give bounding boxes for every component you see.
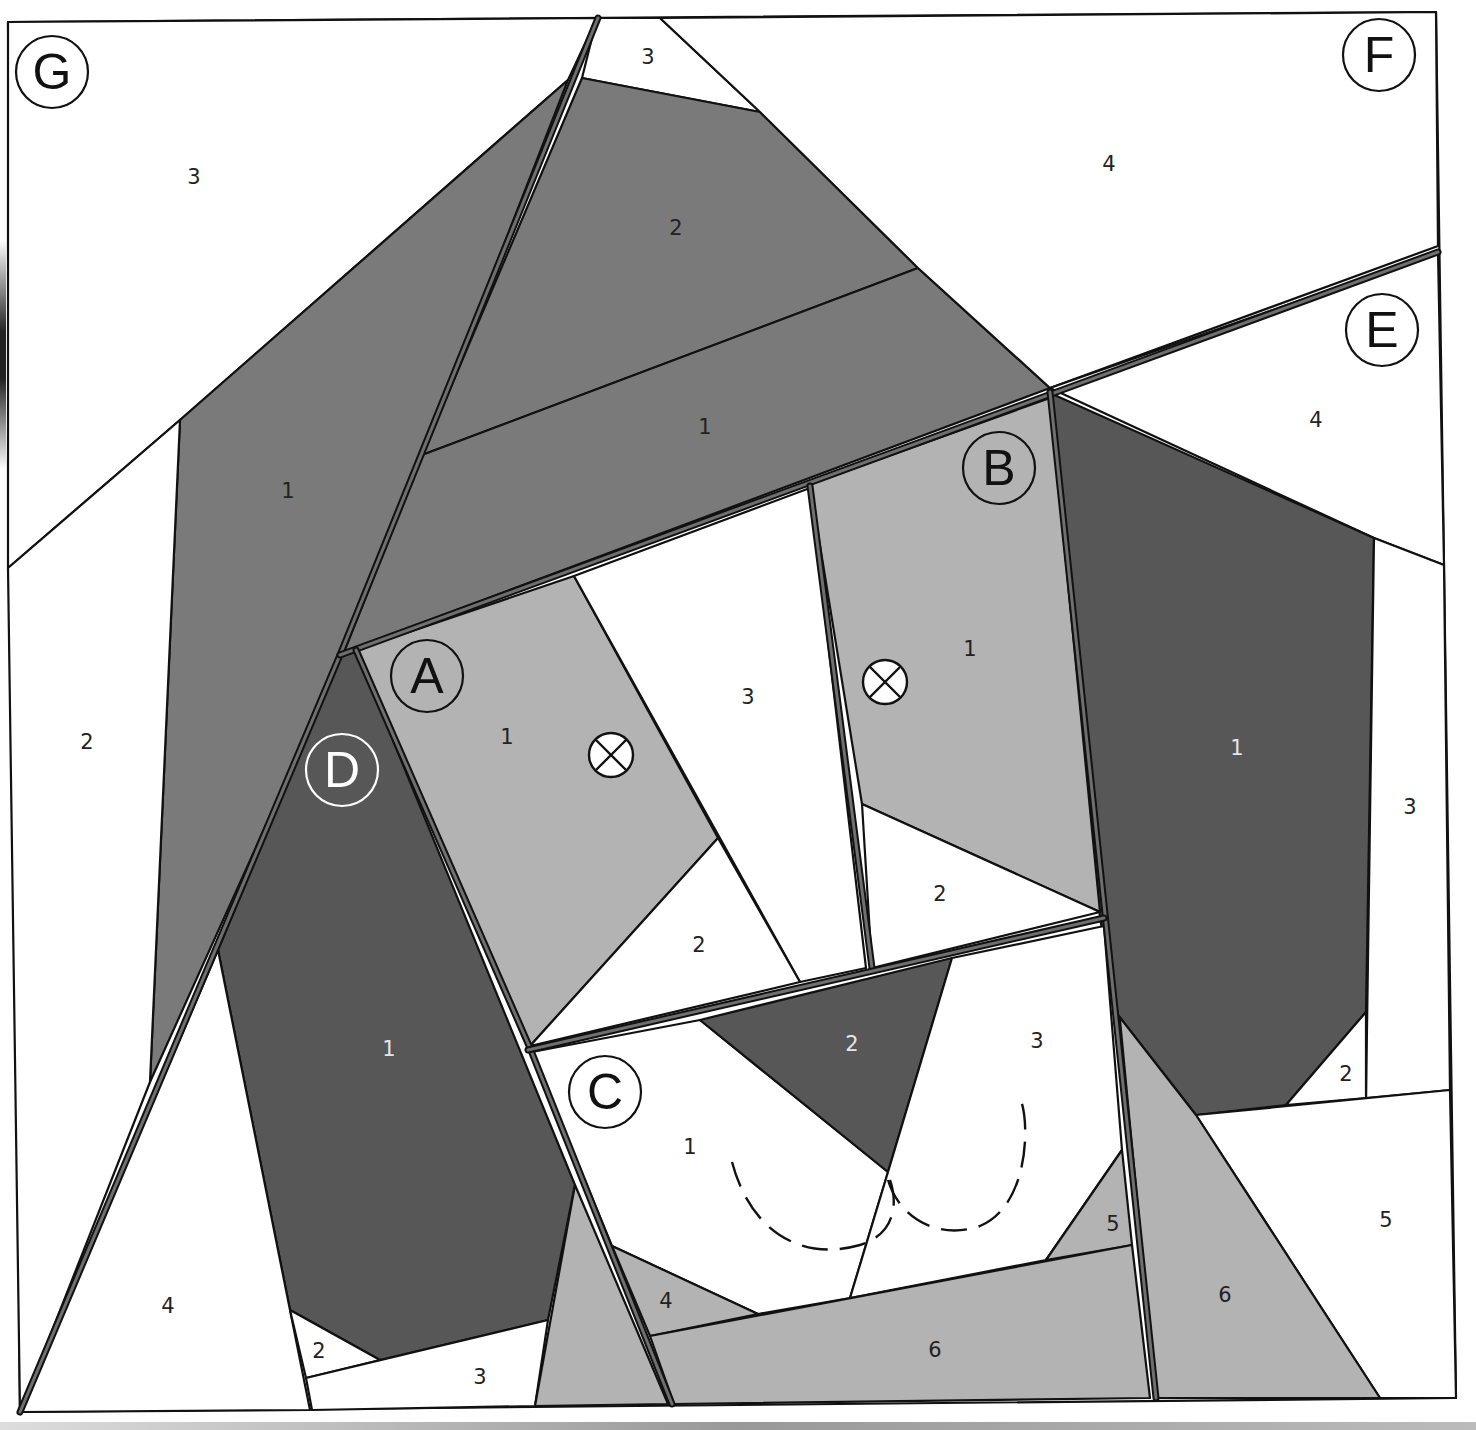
label-a2: 2 [692, 933, 705, 957]
label-e6: 6 [1218, 1283, 1231, 1307]
label-d4: 4 [161, 1294, 174, 1318]
label-c1: 1 [683, 1135, 696, 1159]
label-d3: 3 [473, 1365, 486, 1389]
label-b1: 1 [963, 637, 976, 661]
label-g2: 2 [80, 730, 93, 754]
label-d1: 1 [382, 1037, 395, 1061]
paper-piecing-pattern: G F E B A D C 3 1 2 3 2 1 4 4 1 3 2 5 6 … [0, 0, 1476, 1430]
section-label-c: C [569, 1056, 641, 1128]
section-label-g: G [16, 36, 88, 108]
page-bottom-strip [0, 1422, 1476, 1430]
section-label-e: E [1346, 294, 1418, 366]
label-f1: 1 [698, 415, 711, 439]
svg-text:C: C [587, 1064, 623, 1120]
label-f2: 2 [669, 216, 682, 240]
svg-text:F: F [1364, 27, 1395, 83]
svg-text:B: B [982, 440, 1015, 496]
svg-text:D: D [324, 742, 360, 798]
label-d2: 2 [312, 1339, 325, 1363]
label-g3: 3 [187, 165, 200, 189]
label-c4: 4 [659, 1289, 672, 1313]
label-f4: 4 [1102, 152, 1115, 176]
label-a3: 3 [741, 685, 754, 709]
eye-marker-b [863, 660, 907, 704]
label-b2: 2 [933, 882, 946, 906]
svg-text:A: A [410, 648, 444, 704]
label-e3: 3 [1403, 795, 1416, 819]
svg-text:E: E [1365, 302, 1398, 358]
section-label-f: F [1343, 19, 1415, 91]
label-g1: 1 [281, 479, 294, 503]
label-e1: 1 [1230, 736, 1243, 760]
label-e2: 2 [1339, 1062, 1352, 1086]
label-f3: 3 [641, 45, 654, 69]
label-a1: 1 [500, 725, 513, 749]
label-c5: 5 [1106, 1212, 1119, 1236]
label-c6: 6 [928, 1338, 941, 1362]
svg-text:G: G [33, 44, 72, 100]
eye-marker-a [589, 733, 633, 777]
label-c2: 2 [845, 1032, 858, 1056]
label-e4: 4 [1309, 408, 1322, 432]
label-c3: 3 [1030, 1029, 1043, 1053]
label-e5: 5 [1379, 1208, 1392, 1232]
